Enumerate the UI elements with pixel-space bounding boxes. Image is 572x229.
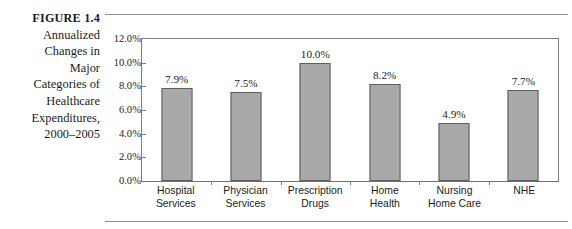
y-axis-tick-label: 2.0% [108, 151, 141, 162]
figure-container: FIGURE 1.4 Annualized Changes in Major C… [0, 0, 572, 229]
figure-caption-line: Categories of [0, 76, 100, 93]
bar-value-label: 7.9% [165, 73, 188, 85]
bar-group: 4.9% [419, 39, 488, 181]
y-axis-tick-label: 6.0% [108, 104, 141, 115]
bar[interactable] [161, 88, 192, 181]
bar-series: 7.9%7.5%10.0%8.2%4.9%7.7% [142, 39, 558, 181]
x-axis-category-line: Physician [211, 185, 281, 198]
x-axis-category-line: Drugs [280, 198, 350, 211]
y-axis: 12.0%10.0%8.0%6.0%4.0%2.0%0.0% [108, 33, 141, 182]
x-axis-category-label: NursingHome Care [420, 185, 490, 210]
y-axis-tick [142, 110, 146, 111]
figure-caption-line: 2000–2005 [0, 126, 100, 143]
bar-value-label: 10.0% [301, 48, 330, 60]
figure-caption-line: Major [0, 60, 100, 77]
bar[interactable] [508, 90, 539, 181]
x-axis-category-line: Hospital [141, 185, 211, 198]
figure-caption: FIGURE 1.4 Annualized Changes in Major C… [0, 10, 100, 143]
bar[interactable] [369, 84, 400, 181]
x-axis-category-label: PrescriptionDrugs [280, 185, 350, 210]
y-axis-tick-label: 0.0% [108, 175, 141, 186]
bar-group: 7.7% [489, 39, 558, 181]
figure-caption-line: Changes in [0, 43, 100, 60]
y-axis-tick [142, 134, 146, 135]
x-axis-category-line: Nursing [420, 185, 490, 198]
bar-group: 7.9% [142, 39, 211, 181]
figure-top-rule [105, 14, 568, 15]
bar[interactable] [438, 123, 469, 181]
x-axis-category-line: Home Care [420, 198, 490, 211]
x-axis-category-label: HomeHealth [350, 185, 420, 210]
y-axis-tick [142, 86, 146, 87]
y-axis-tick [142, 157, 146, 158]
x-axis-category-label: PhysicianServices [211, 185, 281, 210]
y-axis-tick-label: 10.0% [108, 56, 141, 67]
figure-bottom-rule [105, 221, 568, 222]
figure-caption-line: Annualized [0, 27, 100, 44]
x-axis-category-line: NHE [489, 185, 559, 198]
x-axis-category-line: Home [350, 185, 420, 198]
y-axis-tick [142, 63, 146, 64]
bar-value-label: 4.9% [442, 108, 465, 120]
figure-caption-line: Expenditures, [0, 110, 100, 127]
bar-value-label: 7.5% [234, 77, 257, 89]
figure-caption-line: Healthcare [0, 93, 100, 110]
plot-area: 7.9%7.5%10.0%8.2%4.9%7.7% [141, 38, 559, 182]
x-axis-category-label: HospitalServices [141, 185, 211, 210]
y-axis-tick-label: 12.0% [108, 33, 141, 44]
x-axis: HospitalServicesPhysicianServicesPrescri… [141, 185, 559, 210]
bar-group: 7.5% [211, 39, 280, 181]
x-axis-category-line: Services [211, 198, 281, 211]
bar[interactable] [300, 63, 331, 181]
bar-value-label: 7.7% [512, 75, 535, 87]
x-axis-category-line: Services [141, 198, 211, 211]
y-axis-tick-label: 8.0% [108, 80, 141, 91]
x-axis-category-line: Health [350, 198, 420, 211]
y-axis-tick-label: 4.0% [108, 127, 141, 138]
figure-number-label: FIGURE 1.4 [0, 10, 100, 27]
bar-value-label: 8.2% [373, 69, 396, 81]
x-axis-category-label: NHE [489, 185, 559, 210]
bar-group: 10.0% [281, 39, 350, 181]
bar-group: 8.2% [350, 39, 419, 181]
x-axis-category-line: Prescription [280, 185, 350, 198]
bar[interactable] [230, 92, 261, 181]
bar-chart: 12.0%10.0%8.0%6.0%4.0%2.0%0.0% 7.9%7.5%1… [108, 33, 564, 218]
